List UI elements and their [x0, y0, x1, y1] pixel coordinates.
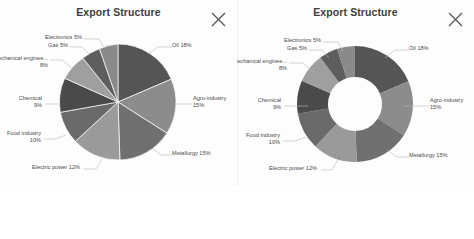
page-title-doughnut: Export Structure — [237, 6, 474, 18]
pie-chart-area: Oil 18% Agro-industry 15% Metallurgy 15%… — [0, 22, 237, 186]
pie-label-agro-industry-line2: 15% — [193, 102, 204, 109]
pie-label-gas: Gas 5% — [48, 42, 68, 49]
pie-label-agro-industry-line1: Agro-industry — [193, 95, 226, 102]
doughnut-chart-area: Oil 18% Agro-industry 15% Metallurgy 15%… — [237, 22, 474, 186]
pie-label-mechanical-line1: Mechanical enginee... — [0, 55, 48, 62]
pie-label-metallurgy: Metallurgy 15% — [172, 150, 211, 157]
leader-gas — [70, 47, 89, 54]
chart-panel-pie: Export Structure — [0, 0, 237, 186]
leader-oil — [148, 47, 172, 54]
leader-electric — [321, 160, 338, 170]
leader-electronics — [84, 39, 104, 48]
doughnut-label-gas: Gas 5% — [287, 45, 307, 52]
leader-metallurgy — [387, 150, 409, 157]
doughnut-label-mechanical-line1: Mechanical enginee... — [237, 58, 287, 65]
doughnut-label-metallurgy: Metallurgy 15% — [409, 152, 448, 159]
export-structure-dual-chart-view: Export Structure — [0, 0, 474, 186]
doughnut-label-agro-industry-line2: 15% — [430, 104, 441, 111]
doughnut-slices — [313, 62, 398, 147]
doughnut-label-agro-industry-line1: Agro-industry — [430, 97, 463, 104]
doughnut-label-chemical-line2: 9% — [273, 104, 281, 111]
pie-label-food-industry-line1: Food industry — [7, 130, 41, 137]
leader-metallurgy — [152, 148, 172, 155]
pie-slices — [59, 44, 176, 160]
page-title-pie: Export Structure — [0, 6, 237, 18]
pie-label-food-industry-line2: 10% — [30, 137, 41, 144]
doughnut-label-electronics: Electronics 5% — [284, 37, 321, 44]
leader-electric — [84, 159, 102, 169]
pie-label-chemical-line2: 9% — [34, 102, 42, 109]
doughnut-label-electric-power: Electric power 12% — [269, 165, 317, 172]
pie-label-chemical-line1: Chemical — [19, 95, 42, 102]
pie-label-mechanical-line2: 8% — [40, 62, 48, 69]
pie-label-electric-power: Electric power 12% — [32, 164, 80, 171]
doughnut-label-mechanical-line2: 8% — [279, 65, 287, 72]
chart-panel-doughnut: Export Structure — [237, 0, 474, 186]
pie-label-electronics: Electronics 5% — [45, 34, 82, 41]
doughnut-label-chemical-line1: Chemical — [258, 97, 281, 104]
leader-mechanical — [50, 60, 72, 68]
doughnut-label-food-industry-line1: Food industry — [246, 132, 280, 139]
leader-food — [44, 135, 66, 139]
leader-food — [283, 137, 307, 141]
doughnut-label-food-industry-line2: 10% — [269, 139, 280, 146]
doughnut-label-oil: Oil 18% — [409, 45, 429, 52]
pie-label-oil: Oil 18% — [172, 42, 192, 49]
